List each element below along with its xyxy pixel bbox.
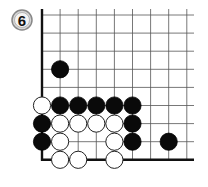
black-stone[interactable]	[33, 133, 50, 150]
white-stone[interactable]	[33, 97, 50, 114]
problem-number: 6	[18, 12, 26, 29]
white-stone[interactable]	[52, 115, 69, 132]
black-stone[interactable]	[52, 97, 69, 114]
stones-layer	[33, 61, 177, 169]
black-stone[interactable]	[52, 61, 69, 78]
white-stone[interactable]	[70, 115, 87, 132]
white-stone[interactable]	[106, 133, 123, 150]
white-stone[interactable]	[52, 133, 69, 150]
black-stone[interactable]	[124, 97, 141, 114]
black-stone[interactable]	[88, 97, 105, 114]
black-stone[interactable]	[160, 133, 177, 150]
black-stone[interactable]	[124, 133, 141, 150]
problem-badge: 6	[12, 10, 32, 30]
white-stone[interactable]	[52, 151, 69, 168]
black-stone[interactable]	[70, 97, 87, 114]
black-stone[interactable]	[124, 115, 141, 132]
white-stone[interactable]	[88, 115, 105, 132]
black-stone[interactable]	[106, 97, 123, 114]
black-stone[interactable]	[33, 115, 50, 132]
white-stone[interactable]	[70, 151, 87, 168]
white-stone[interactable]	[106, 115, 123, 132]
go-board[interactable]: 6	[0, 0, 208, 187]
white-stone[interactable]	[106, 151, 123, 168]
